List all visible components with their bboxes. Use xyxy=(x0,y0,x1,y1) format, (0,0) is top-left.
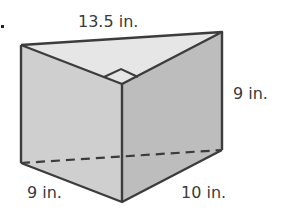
label-top-edge: 13.5 in. xyxy=(78,12,138,31)
label-bottom-left-edge: 9 in. xyxy=(27,183,62,202)
problem-marker-dot xyxy=(1,25,4,28)
label-height: 9 in. xyxy=(233,84,268,103)
label-bottom-right-edge: 10 in. xyxy=(181,183,226,202)
triangular-prism-diagram: 13.5 in. 9 in. 9 in. 10 in. xyxy=(0,0,286,215)
